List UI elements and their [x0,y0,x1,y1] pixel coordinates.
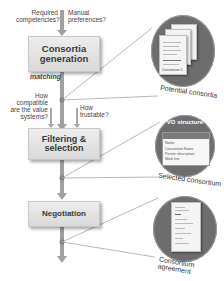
required-competencies-label: Required competencies? [16,9,58,23]
arrowhead-2 [57,193,67,200]
input-arrow-shaft [60,10,64,32]
consortium-document-icon: Consortium 1 [159,35,187,75]
stage-consortia-generation: Consortia generation [28,36,100,72]
value-systems-question: How compatible are the value systems? [8,92,48,121]
stage-filtering-selection: Filtering & selection [28,128,100,160]
arrowhead-3 [57,256,67,263]
trustable-question: How trustable? [80,104,116,118]
stage-label: Negotiation [42,210,86,218]
stage-label: Consortia generation [29,44,99,64]
vo-row: Partner description [165,153,194,157]
selected-consortium-circle: VO structure Name Consortium Name Partne… [155,115,215,177]
consortium-doc-label: Consortium 1 [162,68,183,72]
stage-label: Filtering & selection [29,135,99,154]
vo-row: Name [165,142,174,146]
agreement-document-icon [171,202,201,252]
matching-label: matching [30,73,61,80]
vo-structure-title: VO structure [165,119,205,125]
vo-row: Consortium Name [165,148,193,152]
vo-row: Work line [165,158,180,162]
consortium-agreement-circle [153,196,217,262]
vo-structure-panel: Name Consortium Name Partner description… [162,132,210,166]
potential-consortia-circle: Consortium 1 [151,15,215,87]
manual-preferences-label: Manual preferences? [68,9,112,23]
stage-negotiation: Negotiation [28,201,100,227]
